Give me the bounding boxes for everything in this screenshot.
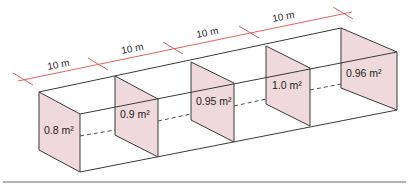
back-bottom-edge-hidden-4 <box>310 84 341 90</box>
dimension-label-4: 10 m <box>271 9 295 24</box>
back-bottom-edge-hidden-2 <box>158 114 191 121</box>
dimension-label-3: 10 m <box>195 25 219 40</box>
area-label-3: 0.95 m² <box>196 95 232 107</box>
dimension-label-2: 10 m <box>120 41 144 56</box>
back-bottom-edge-hidden-3 <box>234 99 266 106</box>
area-label-5: 0.96 m² <box>346 67 382 79</box>
dimension-label-1: 10 m <box>46 57 70 72</box>
back-bottom-edge-hidden <box>80 130 115 136</box>
area-label-2: 0.9 m² <box>120 108 150 120</box>
area-label-4: 1.0 m² <box>272 79 302 91</box>
area-label-1: 0.8 m² <box>44 124 74 136</box>
channel-diagram: 10 m 10 m 10 m 10 m 0.8 m² 0.9 m² 0.95 m… <box>0 0 409 186</box>
